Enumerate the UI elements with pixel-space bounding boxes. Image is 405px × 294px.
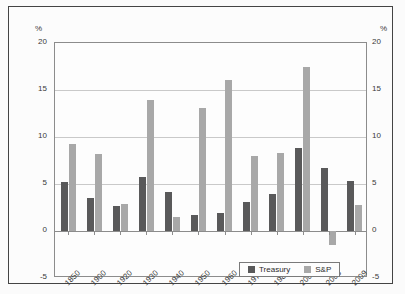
x-tick-1900 <box>94 231 95 235</box>
x-tick-1970 <box>251 231 252 235</box>
y-axis-unit-left: % <box>35 24 42 33</box>
y-tick-label-right-15: 15 <box>372 84 394 93</box>
bar-treasury-1960 <box>217 213 224 231</box>
bar-treasury-1940 <box>165 192 172 231</box>
plot-area <box>54 42 367 277</box>
bar-sp-1950 <box>199 108 206 231</box>
legend-entry-sp[interactable]: S&P <box>304 265 331 274</box>
y-tick-label-left-5: 5 <box>25 178 47 187</box>
x-tick-1940 <box>172 231 173 235</box>
bar-sp-2008 <box>329 231 336 245</box>
chart-frame: % % 20151050-5 20151050-5 18501900192019… <box>8 6 393 284</box>
x-tick-2009 <box>355 231 356 235</box>
screenshot-root: % % 20151050-5 20151050-5 18501900192019… <box>0 0 405 294</box>
x-tick-1850 <box>68 231 69 235</box>
y-tick-label-left-10: 10 <box>25 131 47 140</box>
bar-sp-1920 <box>121 204 128 231</box>
x-tick-1980 <box>277 231 278 235</box>
y-tick-label-left-20: 20 <box>25 37 47 46</box>
bar-treasury-2009 <box>347 181 354 231</box>
y-tick-label-left-15: 15 <box>25 84 47 93</box>
bar-sp-1960 <box>225 80 232 231</box>
bar-sp-1940 <box>173 217 180 231</box>
x-tick-2008 <box>329 231 330 235</box>
x-tick-1920 <box>120 231 121 235</box>
bar-sp-1850 <box>69 144 76 231</box>
bar-treasury-1950 <box>191 215 198 231</box>
y-tick-label-right-0: 0 <box>372 225 394 234</box>
x-tick-1960 <box>225 231 226 235</box>
bar-treasury-1920 <box>113 206 120 231</box>
gridline-15 <box>55 90 366 91</box>
legend-label: S&P <box>315 265 331 274</box>
legend-entry-treasury[interactable]: Treasury <box>248 265 290 274</box>
chart-legend: TreasuryS&P <box>239 262 340 277</box>
gridline-10 <box>55 137 366 138</box>
bar-treasury-1850 <box>61 182 68 231</box>
bar-sp-1970 <box>251 156 258 231</box>
bar-treasury-2000 <box>295 148 302 231</box>
bar-treasury-1900 <box>87 198 94 231</box>
gridline-5 <box>55 184 366 185</box>
bar-treasury-1980 <box>269 194 276 231</box>
x-tick-1930 <box>146 231 147 235</box>
bar-sp-1900 <box>95 154 102 231</box>
bar-sp-1930 <box>147 100 154 231</box>
legend-label: Treasury <box>259 265 290 274</box>
y-tick-label-right-5: 5 <box>372 178 394 187</box>
y-axis-unit-right: % <box>380 24 387 33</box>
bar-treasury-1970 <box>243 202 250 231</box>
bar-treasury-2008 <box>321 168 328 231</box>
bar-sp-1980 <box>277 153 284 231</box>
y-tick-label-right--5: -5 <box>372 272 394 281</box>
bar-sp-2009 <box>355 205 362 231</box>
gridline-0 <box>55 231 366 232</box>
y-tick-label-left--5: -5 <box>25 272 47 281</box>
legend-swatch-icon <box>248 266 255 273</box>
legend-swatch-icon <box>304 266 311 273</box>
bar-sp-2000 <box>303 67 310 232</box>
bar-treasury-1930 <box>139 177 146 231</box>
x-tick-1950 <box>198 231 199 235</box>
x-tick-2000 <box>303 231 304 235</box>
y-tick-label-right-20: 20 <box>372 37 394 46</box>
y-tick-label-left-0: 0 <box>25 225 47 234</box>
y-tick-label-right-10: 10 <box>372 131 394 140</box>
